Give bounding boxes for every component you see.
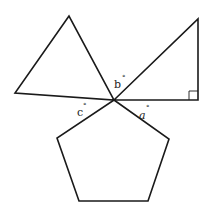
- angle-label-c: c °: [77, 102, 87, 119]
- angle-label-c-degree: °: [83, 102, 87, 110]
- angle-label-b-degree: °: [122, 74, 126, 82]
- pentagon: [57, 100, 169, 201]
- angle-label-a: a °: [139, 104, 150, 122]
- angle-label-a-degree: °: [146, 104, 150, 112]
- left-triangle: [15, 16, 114, 100]
- angle-label-a-letter: a: [139, 109, 146, 122]
- right-triangle: [114, 19, 198, 100]
- angle-label-b: b °: [114, 74, 126, 91]
- angle-label-b-letter: b: [114, 78, 121, 91]
- angle-diagram: b ° c ° a °: [0, 0, 214, 216]
- right-angle-marker: [189, 91, 198, 100]
